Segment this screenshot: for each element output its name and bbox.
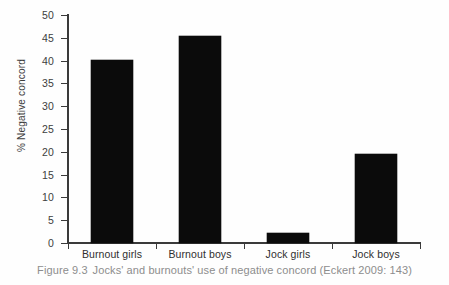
y-axis-tick [61,197,67,198]
y-axis-tick-label: 30 [0,101,54,112]
x-axis-label: Jock boys [332,248,420,260]
y-axis-tick [61,220,67,221]
x-axis-label: Burnout girls [68,248,156,260]
y-axis-tick-label: 40 [0,56,54,67]
y-axis-tick-label: 50 [0,10,54,21]
y-axis-tick-label: 25 [0,124,54,135]
x-axis-tick [156,243,157,249]
y-axis-tick-label: 5 [0,215,54,226]
figure-caption-text: Jocks' and burnouts' use of negative con… [93,264,412,276]
y-axis-tick [61,61,67,62]
figure-page: % Negative concord 05101520253035404550 … [0,0,449,285]
y-axis-tick [61,243,67,244]
x-axis-tick [244,243,245,249]
y-axis-tick [61,15,67,16]
x-axis-tick [420,243,421,249]
bar-chart: % Negative concord 05101520253035404550 … [0,0,449,258]
y-axis-tick [61,152,67,153]
y-axis-tick [61,83,67,84]
bar-series [68,15,420,243]
bar [267,233,309,243]
y-axis-tick-label: 0 [0,238,54,249]
y-axis-tick-label: 15 [0,170,54,181]
y-axis-tick [61,38,67,39]
x-axis-labels: Burnout girlsBurnout boysJock girlsJock … [68,248,420,264]
y-axis-ticks: 05101520253035404550 [0,0,68,258]
y-axis-tick [61,175,67,176]
y-axis-tick-label: 45 [0,33,54,44]
y-axis-tick-label: 20 [0,147,54,158]
bar [179,36,221,243]
x-axis-tick [68,243,69,249]
y-axis-tick [61,129,67,130]
bar [355,154,397,243]
y-axis-tick [61,106,67,107]
y-axis-tick-label: 10 [0,192,54,203]
bar [91,60,133,243]
x-axis-label: Burnout boys [156,248,244,260]
x-axis-label: Jock girls [244,248,332,260]
figure-caption: Figure 9.3Jocks' and burnouts' use of ne… [0,264,449,276]
x-axis-tick [332,243,333,249]
figure-caption-number: Figure 9.3 [37,264,88,276]
y-axis-tick-label: 35 [0,78,54,89]
